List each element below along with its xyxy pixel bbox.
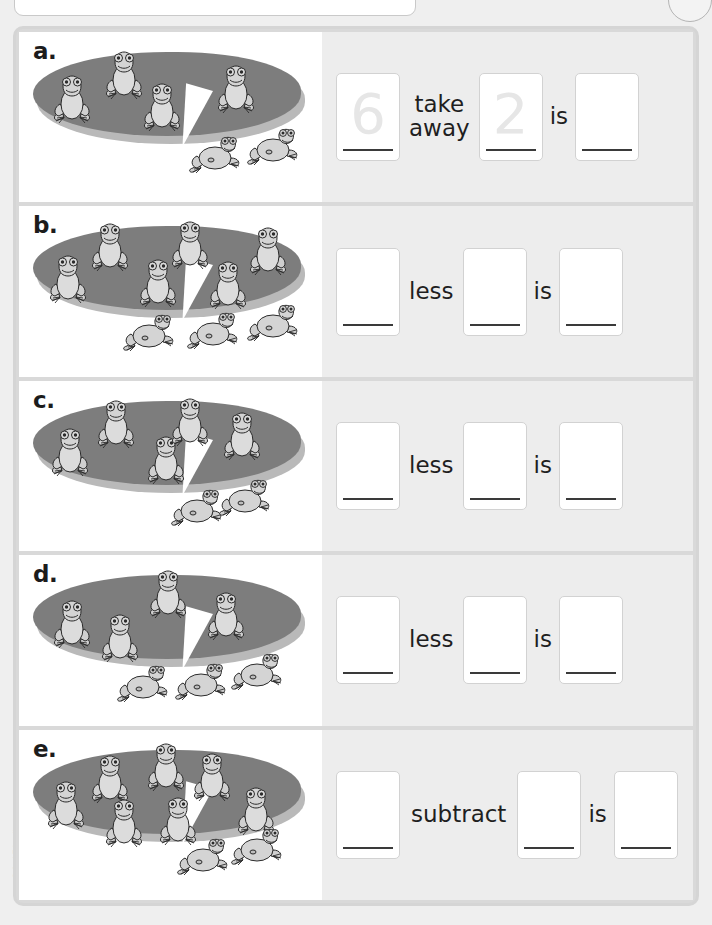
illustration-panel: e. — [19, 730, 322, 900]
answer-underline — [343, 149, 393, 151]
operator-label: less — [400, 454, 463, 478]
guide-numeral: 2 — [493, 86, 529, 142]
answer-box-minuend[interactable] — [336, 771, 400, 859]
answer-underline — [470, 324, 520, 326]
answer-underline — [582, 149, 632, 151]
frog-on-pad — [145, 742, 187, 794]
answer-underline — [343, 498, 393, 500]
frog-hopping-away — [245, 126, 301, 166]
frog-scene — [19, 381, 322, 551]
answer-underline — [470, 672, 520, 674]
frog-scene — [19, 206, 322, 376]
frog-hopping-away — [229, 651, 285, 691]
frog-on-pad — [89, 222, 131, 274]
top-answer-box-cutoff — [14, 0, 416, 16]
answer-box-minuend[interactable] — [336, 248, 400, 336]
question-row: d. — [19, 555, 693, 725]
frog-on-pad — [49, 427, 91, 479]
frog-on-pad — [147, 569, 189, 621]
equals-label: is — [527, 628, 559, 652]
answer-box-subtrahend[interactable] — [463, 248, 527, 336]
answer-box-subtrahend[interactable] — [517, 771, 581, 859]
illustration-panel: d. — [19, 555, 322, 725]
answer-box-difference[interactable] — [559, 248, 623, 336]
guide-numeral: 6 — [350, 86, 386, 142]
number-sentence: lessis — [336, 248, 623, 336]
answer-box-minuend[interactable] — [336, 596, 400, 684]
answer-underline — [470, 498, 520, 500]
question-row: a. — [19, 32, 693, 202]
answer-underline — [343, 324, 393, 326]
frog-on-pad — [51, 599, 93, 651]
frog-on-pad — [215, 64, 257, 116]
answer-box-subtrahend[interactable]: 2 — [479, 73, 543, 161]
frog-hopping-away — [115, 663, 171, 703]
operator-label: take away — [400, 93, 479, 141]
answer-underline — [566, 498, 616, 500]
answer-panel: lessis — [322, 555, 693, 725]
frog-hopping-away — [245, 302, 301, 342]
answer-box-difference[interactable] — [559, 422, 623, 510]
number-sentence: 6take away2is — [336, 73, 639, 161]
frog-scene — [19, 555, 322, 725]
frog-on-pad — [103, 798, 145, 850]
answer-underline — [486, 149, 536, 151]
illustration-panel: c. — [19, 381, 322, 551]
answer-underline — [343, 847, 393, 849]
frog-on-pad — [47, 254, 89, 306]
frog-hopping-away — [229, 826, 285, 866]
answer-underline — [343, 672, 393, 674]
answer-underline — [566, 324, 616, 326]
number-sentence: lessis — [336, 422, 623, 510]
operator-label: less — [400, 280, 463, 304]
answer-box-difference[interactable] — [559, 596, 623, 684]
frog-hopping-away — [217, 477, 273, 517]
frog-on-pad — [205, 591, 247, 643]
frog-on-pad — [103, 50, 145, 102]
equals-label: is — [527, 454, 559, 478]
question-row: e. — [19, 730, 693, 900]
frog-hopping-away — [185, 310, 241, 350]
frog-hopping-away — [121, 312, 177, 352]
frog-on-pad — [51, 74, 93, 126]
frog-hopping-away — [187, 134, 243, 174]
frog-on-pad — [169, 220, 211, 272]
answer-box-minuend[interactable]: 6 — [336, 73, 400, 161]
operator-label: subtract — [400, 803, 517, 827]
answer-box-subtrahend[interactable] — [463, 596, 527, 684]
worksheet-panel: a. — [13, 26, 699, 906]
answer-box-difference[interactable] — [614, 771, 678, 859]
frog-on-pad — [191, 752, 233, 804]
equals-label: is — [581, 803, 613, 827]
top-strip — [0, 0, 712, 22]
page-number-circle-cutoff — [668, 0, 712, 22]
answer-underline — [621, 847, 671, 849]
answer-box-minuend[interactable] — [336, 422, 400, 510]
answer-box-subtrahend[interactable] — [463, 422, 527, 510]
frog-hopping-away — [175, 836, 231, 876]
answer-panel: lessis — [322, 381, 693, 551]
answer-panel: lessis — [322, 206, 693, 376]
equals-label: is — [527, 280, 559, 304]
frog-on-pad — [99, 613, 141, 665]
frog-on-pad — [45, 780, 87, 832]
question-row: c. — [19, 381, 693, 551]
operator-label: less — [400, 628, 463, 652]
equals-label: is — [543, 105, 575, 129]
answer-underline — [524, 847, 574, 849]
frog-on-pad — [207, 260, 249, 312]
frog-on-pad — [169, 397, 211, 449]
frog-scene — [19, 32, 322, 202]
illustration-panel: b. — [19, 206, 322, 376]
frog-hopping-away — [173, 661, 229, 701]
answer-panel: 6take away2is — [322, 32, 693, 202]
number-sentence: lessis — [336, 596, 623, 684]
frog-on-pad — [247, 226, 289, 278]
answer-box-difference[interactable] — [575, 73, 639, 161]
frog-on-pad — [141, 82, 183, 134]
question-row: b. — [19, 206, 693, 376]
frog-on-pad — [221, 411, 263, 463]
illustration-panel: a. — [19, 32, 322, 202]
frog-on-pad — [95, 399, 137, 451]
answer-underline — [566, 672, 616, 674]
